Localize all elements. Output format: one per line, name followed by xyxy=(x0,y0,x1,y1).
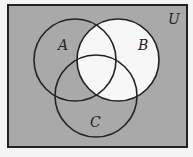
venn-diagram: A B C U xyxy=(0,0,193,157)
set-a-label: A xyxy=(56,37,68,53)
universe-label: U xyxy=(168,11,181,27)
set-b-label: B xyxy=(137,37,148,53)
set-c-label: C xyxy=(90,114,101,130)
